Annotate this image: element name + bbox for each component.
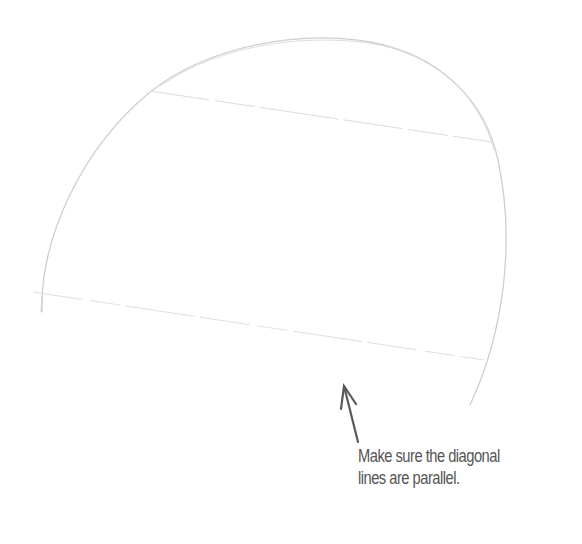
arrow-up-icon xyxy=(341,386,358,442)
lower-guide-line xyxy=(33,292,484,360)
sketch-canvas: Make sure the diagonal lines are paralle… xyxy=(0,0,582,544)
caption-line-2: lines are parallel. xyxy=(358,467,539,489)
circle-arc-overstroke xyxy=(160,40,494,150)
caption-line-1: Make sure the diagonal xyxy=(358,445,539,467)
circle-arc xyxy=(42,38,506,405)
instruction-caption: Make sure the diagonal lines are paralle… xyxy=(358,445,539,489)
upper-guide-line xyxy=(150,91,492,142)
